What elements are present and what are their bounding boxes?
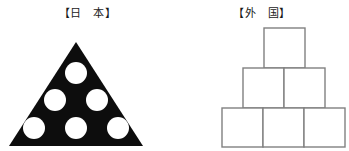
- triangle-hole-bottom-right: [107, 117, 129, 139]
- box-middle-right: [284, 68, 325, 108]
- foreign-figure: [175, 0, 349, 151]
- box-middle-left: [243, 68, 284, 108]
- panel-foreign: 【外 国】: [175, 0, 349, 151]
- triangle-hole-mid-right: [86, 89, 108, 111]
- box-bottom-center: [263, 108, 304, 147]
- triangle-hole-bottom-center: [65, 117, 87, 139]
- triangle-hole-mid-left: [44, 89, 66, 111]
- japan-figure: [0, 0, 175, 151]
- triangle-hole-top: [65, 62, 87, 84]
- box-bottom-right: [304, 108, 345, 147]
- box-bottom-left: [222, 108, 263, 147]
- box-top: [264, 28, 305, 68]
- diagram-canvas: 【日 本】 【外 国】: [0, 0, 349, 151]
- triangle-with-holes-svg: [0, 0, 175, 151]
- triangle-hole-bottom-left: [23, 117, 45, 139]
- stacked-boxes-svg: [175, 0, 349, 151]
- panel-japan: 【日 本】: [0, 0, 175, 151]
